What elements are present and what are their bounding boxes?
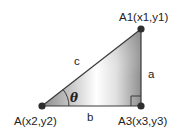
label-point-a1: A1(x1,y1) [119, 11, 168, 23]
right-triangle-diagram: A1(x1,y1) A(x2,y2) A3(x3,y3) c a b θ [0, 0, 189, 135]
label-angle-theta: θ [70, 91, 78, 105]
point-a3 [137, 102, 144, 109]
label-side-c: c [74, 55, 80, 67]
point-a1 [137, 25, 144, 32]
point-a [38, 102, 45, 109]
label-point-a: A(x2,y2) [14, 115, 57, 127]
label-side-a: a [148, 68, 155, 80]
label-point-a3: A3(x3,y3) [118, 115, 167, 127]
label-side-b: b [87, 111, 93, 123]
